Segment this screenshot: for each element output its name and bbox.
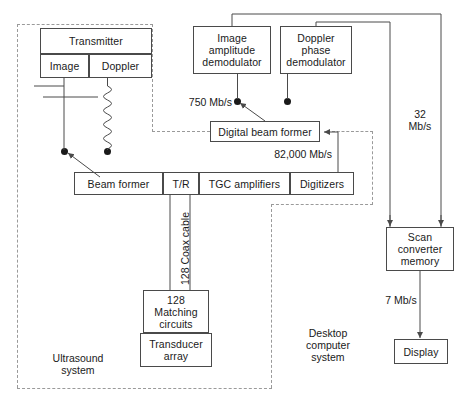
rate-label-display-in: 7 Mb/s bbox=[374, 294, 428, 306]
transmitter-image-box: Image bbox=[40, 54, 89, 78]
doppler-phase-demodulator-box: Doppler phase demodulator bbox=[280, 26, 352, 74]
ultrasound-region-bottom-border bbox=[17, 388, 272, 389]
rate-label-digitizer-out: 82,000 Mb/s bbox=[222, 148, 332, 160]
transmitter-doppler-box: Doppler bbox=[89, 54, 152, 78]
ultrasound-system-diagram: Transmitter Image Doppler Image amplitud… bbox=[0, 0, 465, 406]
ultrasound-system-region-label: Ultrasound system bbox=[33, 352, 123, 376]
coax-cable-label: 128 Coax cable bbox=[179, 212, 191, 285]
ultrasound-region-inner-top-border bbox=[152, 131, 210, 132]
ultrasound-region-top-border bbox=[17, 24, 153, 25]
desktop-computer-system-region-label: Desktop computer system bbox=[288, 327, 368, 363]
desktop-region-bottom-left-border bbox=[271, 204, 373, 205]
transmitter-doppler-switch-contact-dot bbox=[104, 148, 111, 155]
beam-former-box: Beam former bbox=[74, 172, 163, 195]
transducer-array-box: Transducer array bbox=[140, 333, 212, 367]
matching-circuits-box: 128 Matching circuits bbox=[143, 290, 209, 333]
desktop-region-left-border bbox=[271, 204, 272, 388]
rate-label-demodulator-out: 750 Mb/s bbox=[160, 96, 232, 108]
image-demodulator-switch-contact-dot bbox=[234, 98, 241, 105]
tgc-amplifiers-box: TGC amplifiers bbox=[199, 172, 290, 195]
image-amplitude-demodulator-box: Image amplitude demodulator bbox=[193, 26, 271, 74]
coil-symbol bbox=[104, 86, 112, 149]
digital-beam-former-switch-arm bbox=[240, 103, 265, 121]
ultrasound-region-inner-vertical-border bbox=[152, 24, 153, 132]
digital-beam-former-box: Digital beam former bbox=[210, 121, 320, 142]
transmitter-box: Transmitter bbox=[40, 28, 152, 54]
doppler-demodulator-switch-contact-dot bbox=[284, 98, 291, 105]
desktop-region-inner-vertical-border bbox=[372, 131, 373, 205]
desktop-region-inner-top-border bbox=[332, 131, 373, 132]
scan-converter-memory-box: Scan converter memory bbox=[386, 227, 454, 271]
ultrasound-region-left-border bbox=[17, 24, 18, 388]
digitizers-box: Digitizers bbox=[290, 172, 354, 195]
tr-box: T/R bbox=[163, 172, 199, 195]
display-box: Display bbox=[394, 339, 448, 364]
transmitter-image-switch-contact-dot bbox=[61, 148, 68, 155]
rate-label-scan-converter-in: 32 Mb/s bbox=[393, 108, 447, 132]
